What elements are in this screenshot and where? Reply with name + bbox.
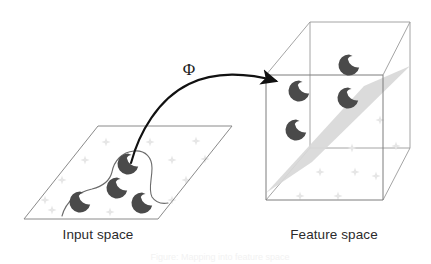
input-dark-markers [69,153,152,213]
input-faint-markers [40,136,209,216]
mapping-symbol-phi: Φ [178,61,200,78]
figure-caption-faint: Figure: Mapping into feature space [60,252,380,263]
input-space-label: Input space [0,227,196,242]
mapping-arrow-group [131,75,276,163]
input-space-group [24,126,232,219]
feature-space-label: Feature space [236,227,431,242]
diagram-canvas [0,0,431,264]
kernel-mapping-figure: Φ Input space Feature space Figure: Mapp… [0,0,431,264]
feature-space-group [266,22,410,201]
feature-dark-markers [285,54,359,140]
mapping-arrow [131,75,276,163]
